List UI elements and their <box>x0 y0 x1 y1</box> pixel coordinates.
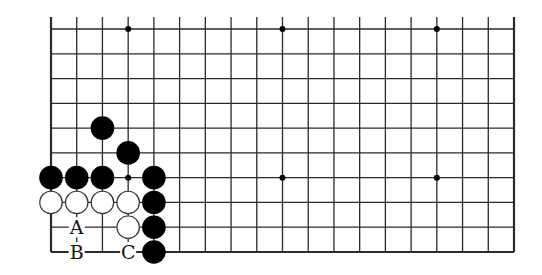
star-point <box>280 26 286 32</box>
black-stone <box>91 116 115 140</box>
white-stone <box>66 191 88 213</box>
white-stone <box>117 216 139 238</box>
black-stone <box>142 191 166 215</box>
black-stone <box>65 166 89 190</box>
black-stone <box>91 166 115 190</box>
white-stone <box>91 191 113 213</box>
point-label-c: C <box>121 241 136 263</box>
point-label-b: B <box>70 241 84 263</box>
black-stone <box>142 240 166 264</box>
star-point <box>280 175 286 181</box>
black-stone <box>142 215 166 239</box>
star-point <box>434 26 440 32</box>
star-point <box>434 175 440 181</box>
black-stone <box>39 166 63 190</box>
board-grid <box>51 17 514 252</box>
black-stone <box>142 166 166 190</box>
white-stone <box>117 191 139 213</box>
star-point <box>125 175 131 181</box>
star-point <box>125 26 131 32</box>
black-stone <box>116 141 140 165</box>
point-label-a: A <box>69 216 84 238</box>
go-board: ABC <box>0 0 542 275</box>
white-stone <box>40 191 62 213</box>
